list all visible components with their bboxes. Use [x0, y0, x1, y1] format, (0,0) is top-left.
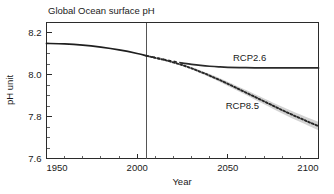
x-axis-title: Year [172, 176, 191, 187]
x-axis-major-ticks [47, 154, 319, 159]
chart-title: Global Ocean surface pH [48, 5, 155, 16]
y-tick-label: 7.8 [28, 111, 41, 122]
series-label-rcp85: RCP8.5 [226, 100, 259, 111]
y-axis-tick-labels: 8.28.07.87.6 [28, 27, 41, 164]
series-rcp85-line [146, 56, 318, 126]
x-tick-label: 2100 [297, 162, 318, 173]
x-tick-label: 2050 [217, 162, 238, 173]
x-axis-tick-labels: 1950200020502100 [47, 162, 319, 173]
plot-frame [47, 23, 319, 159]
y-tick-label: 7.6 [28, 153, 41, 164]
ocean-ph-line-chart: Global Ocean surface pH 8.28.07.87.6 195… [0, 0, 334, 194]
y-tick-label: 8.0 [28, 69, 41, 80]
series-label-rcp26: RCP2.6 [233, 52, 266, 63]
series-historical-line [47, 43, 147, 55]
y-tick-label: 8.2 [28, 27, 41, 38]
x-tick-label: 1950 [47, 162, 68, 173]
x-tick-label: 2000 [127, 162, 148, 173]
y-axis-title: pH unit [4, 75, 15, 105]
series-rcp26-solid-segment [183, 63, 319, 68]
chart-figure: Global Ocean surface pH 8.28.07.87.6 195… [0, 0, 334, 194]
